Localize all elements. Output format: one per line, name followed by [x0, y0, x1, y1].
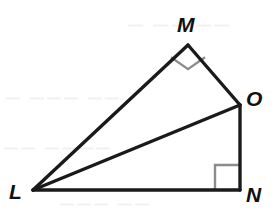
triangle-outline: [33, 45, 240, 190]
geometry-figure: — —— —— — ——— —— —— ———— ——— —— M O N L: [0, 0, 277, 219]
vertex-label-L: L: [9, 181, 22, 202]
segment-LO: [33, 105, 240, 190]
vertex-label-N: N: [246, 184, 261, 205]
triangle-diagram-canvas: [0, 0, 277, 219]
right-angle-mark-at-N: [215, 165, 240, 190]
segment-LM: [33, 45, 188, 190]
segment-MO: [188, 45, 240, 105]
vertex-label-O: O: [246, 88, 262, 109]
right-angle-marks: [171, 57, 240, 190]
vertex-label-M: M: [177, 14, 195, 35]
